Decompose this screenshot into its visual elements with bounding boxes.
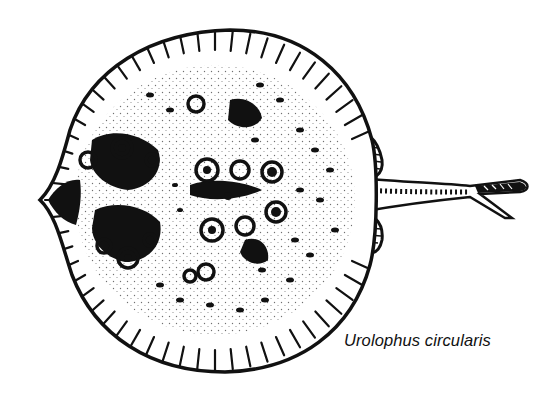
figure: Urolophus circularis: [0, 0, 559, 396]
figure-caption: Urolophus circularis: [344, 331, 491, 350]
tail: [360, 178, 528, 218]
disc: [40, 30, 376, 372]
